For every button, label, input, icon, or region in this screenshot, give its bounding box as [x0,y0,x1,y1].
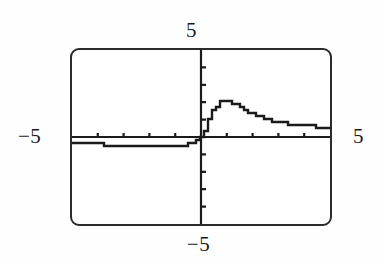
y-min-label: −5 [0,234,383,255]
plot-area [72,50,330,224]
calculator-screen-figure: 5 −5 5 −5 [0,0,383,264]
x-max-label: 5 [353,126,364,147]
y-max-label: 5 [0,20,383,41]
calculator-screen-bezel [70,48,332,226]
x-min-label: −5 [18,126,41,147]
